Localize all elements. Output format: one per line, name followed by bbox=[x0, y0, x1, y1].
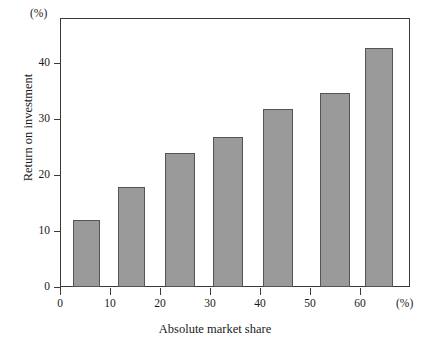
y-axis-unit: (%) bbox=[30, 7, 47, 19]
bar bbox=[365, 48, 393, 287]
chart-page: (%) Return on investment 010203040010203… bbox=[0, 0, 430, 348]
x-axis-label: 40 bbox=[240, 297, 280, 309]
x-axis-label: 60 bbox=[340, 297, 380, 309]
bar bbox=[118, 187, 146, 287]
y-axis-label: 0 bbox=[0, 281, 50, 293]
x-axis-tick bbox=[360, 288, 361, 295]
y-axis-tick bbox=[54, 175, 61, 176]
y-axis-label: 30 bbox=[0, 113, 50, 125]
y-axis-label: 10 bbox=[0, 225, 50, 237]
bar bbox=[263, 109, 293, 287]
x-axis-tick bbox=[160, 288, 161, 295]
x-axis-label: 10 bbox=[90, 297, 130, 309]
y-axis-label: 40 bbox=[0, 57, 50, 69]
y-axis-tick bbox=[54, 119, 61, 120]
x-axis-label: 20 bbox=[140, 297, 180, 309]
bar bbox=[320, 93, 350, 287]
x-axis-label: 50 bbox=[290, 297, 330, 309]
x-axis-label: 30 bbox=[190, 297, 230, 309]
bar bbox=[73, 220, 101, 287]
bar bbox=[213, 137, 243, 287]
y-axis-tick bbox=[54, 63, 61, 64]
x-axis-label: 0 bbox=[40, 297, 80, 309]
x-axis-title: Absolute market share bbox=[0, 322, 430, 337]
bar-series bbox=[60, 18, 410, 287]
y-axis-tick bbox=[54, 231, 61, 232]
bar bbox=[165, 153, 195, 287]
y-axis-label: 20 bbox=[0, 169, 50, 181]
x-axis-tick bbox=[210, 288, 211, 295]
x-axis-tick bbox=[260, 288, 261, 295]
x-axis-tick bbox=[310, 288, 311, 295]
x-axis-unit: (%) bbox=[396, 297, 413, 309]
x-axis-tick bbox=[110, 288, 111, 295]
x-axis-tick bbox=[60, 288, 61, 295]
